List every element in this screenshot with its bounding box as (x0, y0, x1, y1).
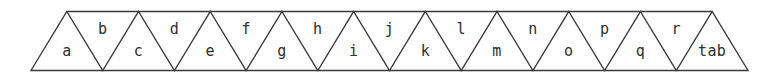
triangle-label-b: b (98, 20, 107, 38)
triangle-label-r: r (672, 20, 681, 38)
triangle-label-f: f (241, 20, 250, 38)
triangle-label-g: g (277, 42, 286, 60)
triangle-label-tab: tab (698, 42, 726, 60)
triangle-label-e: e (206, 42, 215, 60)
triangle-label-n: n (528, 20, 537, 38)
strip-svg: abcdefghijklmnopqrtab (0, 0, 781, 80)
triangle-label-c: c (134, 42, 143, 60)
triangle-label-o: o (564, 42, 573, 60)
triangle-label-j: j (385, 20, 394, 38)
triangle-label-k: k (421, 42, 430, 60)
triangle-label-a: a (62, 42, 71, 60)
triangle-label-h: h (313, 20, 322, 38)
triangle-label-d: d (170, 20, 179, 38)
triangle-strip-figure: abcdefghijklmnopqrtab (0, 0, 781, 80)
triangle-label-i: i (349, 42, 358, 60)
triangle-label-l: l (456, 20, 465, 38)
triangle-label-q: q (636, 42, 645, 60)
triangle-label-p: p (600, 20, 609, 38)
triangle-label-m: m (492, 42, 501, 60)
